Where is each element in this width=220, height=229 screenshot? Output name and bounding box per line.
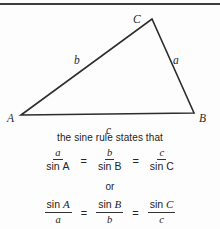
denominator-c: c	[157, 214, 166, 225]
numerator-sin-A: sin A	[45, 199, 72, 213]
equals-sign-1a: =	[72, 155, 96, 167]
sin-text: sin	[150, 198, 163, 210]
numerator-sin-C: sin C	[148, 199, 176, 213]
sin-text: sin	[47, 198, 60, 210]
vertex-label-C: C	[133, 14, 141, 26]
fraction-sinB-over-b: sin B b	[96, 199, 123, 225]
sine-rule-diagram-page: A B C a b c the sine rule states that a …	[0, 0, 220, 229]
vertex-label-A: A	[7, 113, 14, 125]
denominator-sin-C: sin C	[148, 161, 176, 172]
vertex-label-B: B	[199, 113, 206, 125]
denominator-b: b	[105, 214, 114, 225]
side-label-a: a	[173, 55, 179, 67]
denominator-a: a	[54, 214, 63, 225]
angle-B: B	[115, 198, 122, 210]
sin-text: sin	[98, 198, 111, 210]
equals-sign-2a: =	[72, 207, 96, 219]
angle-A: A	[63, 160, 70, 172]
equation-row-secondary: sin A a = sin B b = sin C c	[0, 199, 220, 225]
numerator-a: a	[53, 147, 62, 160]
triangle-svg	[0, 6, 220, 132]
triangle-shape	[21, 19, 194, 115]
equation-row-primary: a sin A = b sin B = c sin C	[0, 147, 220, 172]
side-label-b: b	[74, 55, 80, 67]
top-horizontal-rule	[0, 3, 220, 5]
fraction-sinA-over-a: sin A a	[45, 199, 72, 225]
or-connector: or	[0, 181, 220, 192]
equals-sign-2b: =	[123, 207, 147, 219]
equals-sign-1b: =	[123, 155, 147, 167]
fraction-a-over-sinA: a sin A	[44, 147, 71, 172]
angle-C: C	[166, 160, 174, 172]
sin-text: sin	[98, 160, 111, 172]
angle-A: A	[63, 198, 70, 210]
fraction-b-over-sinB: b sin B	[96, 147, 123, 172]
triangle-figure: A B C a b c	[0, 6, 220, 132]
angle-C: C	[166, 198, 173, 210]
denominator-sin-A: sin A	[44, 161, 71, 172]
denominator-sin-B: sin B	[96, 161, 123, 172]
numerator-sin-B: sin B	[96, 199, 123, 213]
sin-text: sin	[46, 160, 59, 172]
sine-rule-caption: the sine rule states that	[0, 132, 220, 143]
numerator-c: c	[157, 147, 166, 160]
sin-text: sin	[150, 160, 163, 172]
fraction-sinC-over-c: sin C c	[148, 199, 176, 225]
fraction-c-over-sinC: c sin C	[148, 147, 176, 172]
angle-B: B	[114, 160, 121, 172]
numerator-b: b	[105, 147, 114, 160]
